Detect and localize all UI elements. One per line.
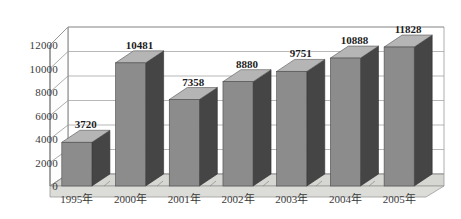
bar-front-face bbox=[223, 82, 253, 186]
x-axis-tick-label: 2002年 bbox=[212, 193, 264, 206]
bar-side-face bbox=[253, 70, 271, 186]
bar-value-label: 3720 bbox=[55, 119, 117, 130]
bar-side-face bbox=[199, 88, 217, 186]
bar-side-face bbox=[307, 59, 325, 186]
x-axis-tick-label: 2003年 bbox=[266, 193, 318, 206]
x-axis-tick-label: 1995年 bbox=[51, 193, 103, 206]
y-axis-tick-labels: 020004000600080001000012000 bbox=[6, 0, 58, 219]
y-axis-tick-label: 0 bbox=[12, 181, 58, 192]
bar-value-label: 11828 bbox=[377, 24, 439, 35]
bar-front-face bbox=[116, 63, 146, 186]
y-axis-tick-label: 4000 bbox=[12, 134, 58, 145]
bar-front-face bbox=[62, 142, 92, 186]
bar-side-face bbox=[146, 51, 164, 186]
bar-value-label: 8880 bbox=[216, 59, 278, 70]
x-axis-tick-label: 2005年 bbox=[373, 193, 425, 206]
bar-chart: 020004000600080001000012000 1995年2000年20… bbox=[0, 0, 461, 219]
y-axis-tick-label: 12000 bbox=[12, 40, 58, 51]
y-axis-tick-label: 8000 bbox=[12, 87, 58, 98]
bar-side-face bbox=[360, 46, 378, 186]
x-axis-tick-label: 2000年 bbox=[105, 193, 157, 206]
x-axis-tick-label: 2004年 bbox=[319, 193, 371, 206]
bar-front-face bbox=[169, 100, 199, 186]
bar-value-label: 10888 bbox=[323, 35, 385, 46]
bar-side-face bbox=[414, 35, 432, 186]
x-axis-tick-labels: 1995年2000年2001年2002年2003年2004年2005年 bbox=[0, 193, 461, 213]
bar-value-label: 9751 bbox=[270, 48, 332, 59]
bar-value-label: 7358 bbox=[162, 77, 224, 88]
y-axis-tick-label: 6000 bbox=[12, 111, 58, 122]
x-axis-tick-label: 2001年 bbox=[158, 193, 210, 206]
bar-front-face bbox=[330, 58, 360, 186]
bar-front-face bbox=[384, 47, 414, 186]
bar-front-face bbox=[277, 71, 307, 186]
y-axis-tick-label: 10000 bbox=[12, 64, 58, 75]
bar-value-label: 10481 bbox=[109, 40, 171, 51]
y-axis-tick-label: 2000 bbox=[12, 158, 58, 169]
